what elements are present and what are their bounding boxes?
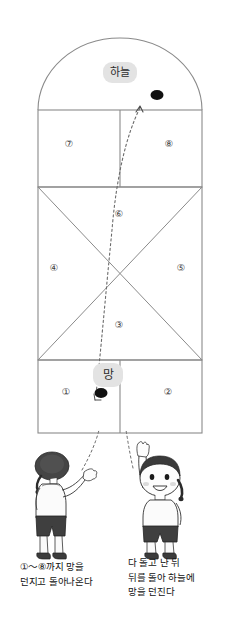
throw-trajectory-to-sky	[96, 108, 140, 394]
zone-label-sky: 하늘	[103, 62, 137, 83]
mang-stone	[95, 388, 108, 398]
cell-number-7: ⑦	[62, 139, 76, 149]
cell-number-8: ⑧	[162, 139, 176, 149]
left-child-throw-arc	[82, 430, 99, 470]
cell-number-5: ⑤	[174, 263, 188, 273]
cell-number-3: ③	[112, 320, 126, 330]
caption-right: 다 돌고 난 뒤 뒤를 돌아 하늘에 망을 던진다	[128, 556, 233, 600]
cell-number-2: ②	[161, 387, 175, 397]
cell-number-1: ①	[59, 387, 73, 397]
caption-left: ①～⑧까지 망을 던지고 돌아나온다	[20, 560, 125, 589]
zone-label-mang: 망	[93, 363, 123, 387]
child-throwing-left	[35, 452, 97, 559]
cell-number-4: ④	[47, 263, 61, 273]
cell-number-6: ⑥	[112, 209, 126, 219]
children-illustration	[0, 430, 240, 560]
child-raising-arm-right	[137, 442, 184, 559]
hopscotch-diagram-page: 하늘 망 ① ② ③ ④ ⑤ ⑥ ⑦ ⑧	[0, 0, 240, 628]
right-child-throw-arc	[126, 430, 133, 468]
stone-in-sky	[151, 90, 164, 100]
